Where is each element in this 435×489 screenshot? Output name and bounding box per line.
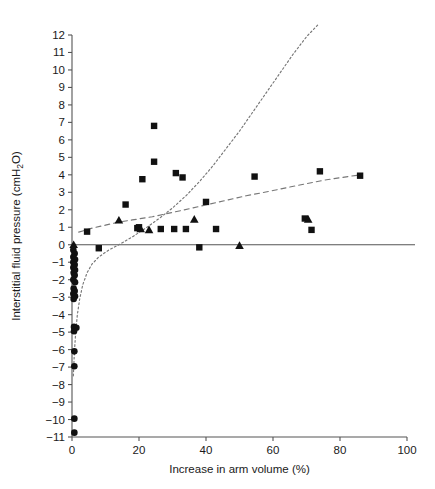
data-point-square: [122, 201, 128, 207]
lower-dotted-fit: [73, 25, 318, 376]
y-tick-label: 6: [59, 134, 65, 146]
y-tick-label: 4: [59, 169, 66, 181]
data-point-circle: [71, 415, 78, 422]
axes-group: 1211109876543210−1−2−3−4−5−6−7−8−9−10−11…: [45, 29, 416, 456]
data-point-square: [139, 176, 145, 182]
data-point-circle: [70, 296, 77, 303]
x-tick-label: 40: [200, 444, 213, 456]
data-points-group: [69, 123, 363, 436]
data-point-triangle: [115, 216, 124, 224]
y-tick-label: 7: [59, 116, 65, 128]
y-tick-label: −5: [52, 326, 65, 338]
fit-curves-group: [73, 25, 360, 376]
y-tick-label: 12: [52, 29, 65, 41]
y-tick-label: −1: [52, 256, 65, 268]
data-point-triangle: [190, 215, 199, 223]
figure-container: 1211109876543210−1−2−3−4−5−6−7−8−9−10−11…: [0, 0, 435, 489]
y-tick-label: −6: [52, 344, 65, 356]
data-point-square: [151, 123, 157, 129]
x-tick-label: 80: [334, 444, 347, 456]
y-tick-label: −2: [52, 274, 65, 286]
y-tick-label: 11: [53, 46, 65, 58]
data-point-triangle: [145, 226, 154, 234]
y-tick-label: 1: [59, 221, 65, 233]
x-tick-label: 100: [397, 444, 416, 456]
y-tick-label: 5: [59, 151, 65, 163]
data-point-square: [317, 168, 323, 174]
data-point-circle: [72, 279, 79, 286]
x-tick-label: 0: [69, 444, 75, 456]
x-tick-label: 20: [133, 444, 146, 456]
data-point-square: [84, 228, 90, 234]
data-point-circle: [71, 348, 78, 355]
y-tick-label: −9: [52, 396, 65, 408]
data-point-circle: [71, 363, 78, 370]
y-tick-label: 3: [59, 186, 65, 198]
y-axis-title: Interstitial fluid pressure (cmH2O): [10, 151, 25, 321]
y-axis-title-tail: O): [10, 151, 22, 164]
data-point-square: [213, 226, 219, 232]
data-point-square: [183, 226, 189, 232]
scatter-plot: 1211109876543210−1−2−3−4−5−6−7−8−9−10−11…: [0, 0, 435, 489]
data-point-square: [151, 159, 157, 165]
data-point-square: [308, 227, 314, 233]
data-point-square: [196, 244, 202, 250]
data-point-circle: [71, 429, 78, 436]
y-tick-label: −11: [46, 431, 65, 443]
x-tick-label: 60: [267, 444, 280, 456]
data-point-square: [251, 173, 257, 179]
data-point-square: [203, 199, 209, 205]
y-tick-label: 10: [52, 64, 65, 76]
data-point-square: [173, 170, 179, 176]
data-point-circle: [71, 328, 78, 335]
y-tick-label: −7: [52, 361, 65, 373]
data-point-square: [171, 226, 177, 232]
y-tick-label: 9: [59, 81, 65, 93]
y-tick-label: −8: [52, 379, 65, 391]
y-tick-label: 8: [59, 99, 65, 111]
y-tick-label: 2: [59, 204, 65, 216]
y-tick-label: 0: [59, 239, 65, 251]
y-tick-label: −10: [45, 414, 65, 426]
data-point-square: [357, 173, 363, 179]
data-point-square: [158, 226, 164, 232]
data-point-square: [96, 245, 102, 251]
y-tick-label: −3: [52, 291, 65, 303]
y-axis-title-main: Interstitial fluid pressure (cmH: [10, 169, 22, 321]
data-point-square: [179, 174, 185, 180]
x-axis-title: Increase in arm volume (%): [169, 463, 310, 475]
y-tick-label: −4: [52, 309, 66, 321]
